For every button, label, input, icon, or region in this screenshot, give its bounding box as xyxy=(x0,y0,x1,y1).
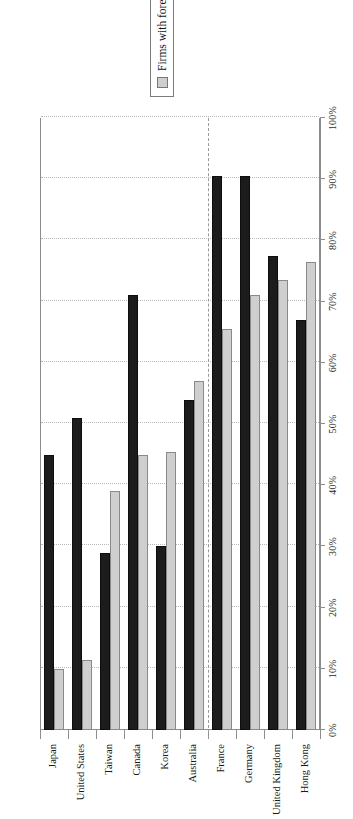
bar-foreign-sales-hong-kong xyxy=(296,320,306,730)
category-label-united-states: United States xyxy=(76,744,87,819)
category-axis-tick xyxy=(236,730,237,739)
value-axis-label: 70% xyxy=(327,284,338,320)
value-axis-label: 90% xyxy=(327,161,338,197)
category-axis-tick xyxy=(96,730,97,739)
category-label-korea: Korea xyxy=(160,744,171,819)
category-label-canada: Canada xyxy=(132,744,143,819)
value-axis-tick xyxy=(320,484,325,485)
bar-foreign-sales-united-states xyxy=(72,418,82,730)
category-axis-tick xyxy=(320,730,321,739)
bar-foreign-leads-france xyxy=(222,329,232,730)
bar-foreign-leads-canada xyxy=(138,455,148,730)
bar-foreign-sales-japan xyxy=(44,455,54,730)
bar-foreign-leads-taiwan xyxy=(110,491,120,730)
value-axis-label: 30% xyxy=(327,528,338,564)
value-axis-label: 20% xyxy=(327,590,338,626)
category-label-france: France xyxy=(216,744,227,819)
bar-foreign-leads-hong-kong xyxy=(306,262,316,730)
legend-swatch-leads-icon xyxy=(157,77,168,88)
category-axis-tick xyxy=(68,730,69,739)
gridline xyxy=(41,238,319,239)
category-axis-tick xyxy=(124,730,125,739)
value-axis-label: 60% xyxy=(327,345,338,381)
bar-foreign-leads-korea xyxy=(166,452,176,730)
category-axis-tick xyxy=(40,730,41,739)
legend-label: Firms with foreign leads xyxy=(156,0,168,71)
category-axis-tick xyxy=(264,730,265,739)
value-axis-tick xyxy=(320,178,325,179)
bar-foreign-leads-germany xyxy=(250,295,260,730)
category-label-united-kingdom: United Kingdom xyxy=(272,744,283,819)
value-axis-label: 80% xyxy=(327,222,338,258)
category-label-germany: Germany xyxy=(244,744,255,819)
value-axis-tick xyxy=(320,607,325,608)
bar-foreign-leads-united-kingdom xyxy=(278,280,288,730)
bar-foreign-sales-korea xyxy=(156,546,166,730)
value-axis-tick xyxy=(320,239,325,240)
category-label-australia: Australia xyxy=(188,744,199,819)
value-axis-label: 10% xyxy=(327,651,338,687)
bar-foreign-sales-united-kingdom xyxy=(268,256,278,730)
bar-foreign-sales-france xyxy=(212,176,222,730)
bar-foreign-sales-germany xyxy=(240,176,250,730)
category-axis-tick xyxy=(152,730,153,739)
category-axis-tick xyxy=(292,730,293,739)
category-label-taiwan: Taiwan xyxy=(104,744,115,819)
category-label-japan: Japan xyxy=(48,744,59,819)
value-axis-label: 0% xyxy=(327,712,338,748)
value-axis-tick xyxy=(320,362,325,363)
value-axis-tick xyxy=(320,545,325,546)
bar-foreign-leads-australia xyxy=(194,381,204,730)
value-axis-tick xyxy=(320,301,325,302)
value-axis-label: 100% xyxy=(327,100,338,136)
legend-entry-leads: Firms with foreign leads xyxy=(156,0,168,88)
gridline xyxy=(41,116,319,117)
gridline xyxy=(41,177,319,178)
bar-foreign-leads-japan xyxy=(54,669,64,730)
category-label-hong-kong: Hong Kong xyxy=(300,744,311,819)
bar-foreign-sales-australia xyxy=(184,400,194,730)
chart-legend: Firms with foreign leadsFirms with forei… xyxy=(150,0,174,97)
value-axis-tick xyxy=(320,423,325,424)
group-separator-line xyxy=(208,118,209,738)
value-axis-tick xyxy=(320,117,325,118)
value-axis-label: 50% xyxy=(327,406,338,442)
bar-foreign-leads-united-states xyxy=(82,660,92,730)
category-axis-tick xyxy=(180,730,181,739)
bar-foreign-sales-taiwan xyxy=(100,553,110,730)
value-axis-tick xyxy=(320,668,325,669)
bar-foreign-sales-canada xyxy=(128,295,138,730)
value-axis-label: 40% xyxy=(327,467,338,503)
